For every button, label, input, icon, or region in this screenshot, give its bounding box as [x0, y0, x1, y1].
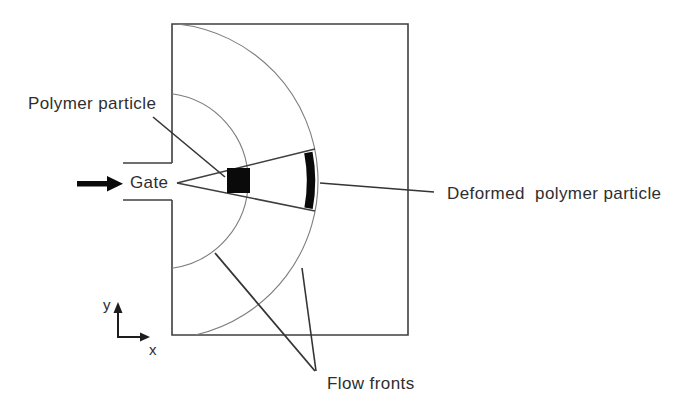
deformed-polymer-particle-label: Deformed polymer particle [447, 185, 661, 204]
x-axis-label: x [149, 341, 157, 358]
mold-cavity-outline [172, 24, 408, 335]
flow-fronts-leader-line-outer [302, 268, 316, 371]
flow-fronts-label: Flow fronts [327, 375, 415, 394]
y-axis-arrowhead-icon [114, 302, 123, 313]
injection-arrow-icon [77, 176, 123, 192]
polymer-particle-leader-line [153, 117, 225, 177]
polymer-particle-square [227, 168, 250, 193]
flow-fronts-leader-line-inner [215, 253, 315, 371]
gate-label: Gate [130, 174, 168, 193]
diagram-canvas: Polymer particle Gate Deformed polymer p… [0, 0, 687, 416]
y-axis-label: y [103, 296, 111, 313]
polymer-particle-label: Polymer particle [28, 95, 156, 114]
deformed-particle-band [304, 152, 315, 209]
deformed-particle-leader-line [320, 183, 434, 192]
diagram-artwork [0, 0, 687, 416]
